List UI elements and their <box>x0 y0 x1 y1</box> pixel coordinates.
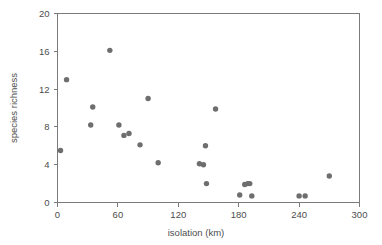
plot-canvas: 060120180240300 048121620 isolation (km)… <box>0 0 382 245</box>
data-point <box>64 77 69 82</box>
x-tick-label: 180 <box>231 209 247 220</box>
data-point <box>107 48 112 53</box>
y-axis-title: species richness <box>8 73 19 143</box>
data-point <box>58 148 63 153</box>
y-tick-label: 4 <box>44 159 49 170</box>
scatter-plot-figure: 060120180240300 048121620 isolation (km)… <box>0 0 382 245</box>
data-point <box>126 131 131 136</box>
data-point <box>204 181 209 186</box>
y-tick-label: 12 <box>39 84 50 95</box>
data-point <box>327 173 332 178</box>
x-tick-label: 120 <box>170 209 186 220</box>
y-axis-ticks <box>54 14 58 203</box>
x-axis-tick-labels: 060120180240300 <box>55 209 368 220</box>
data-point <box>90 104 95 109</box>
data-point <box>203 143 208 148</box>
x-axis-ticks <box>58 203 360 207</box>
x-tick-label: 60 <box>113 209 124 220</box>
data-point <box>213 106 218 111</box>
data-point <box>145 96 150 101</box>
y-tick-label: 20 <box>39 8 50 19</box>
data-point <box>116 122 121 127</box>
data-point <box>155 160 160 165</box>
data-point <box>88 122 93 127</box>
data-point <box>249 193 254 198</box>
data-point <box>237 192 242 197</box>
y-tick-label: 16 <box>39 46 50 57</box>
data-point <box>296 193 301 198</box>
data-point <box>302 193 307 198</box>
data-points <box>58 48 332 199</box>
data-point <box>121 133 126 138</box>
plot-frame <box>58 14 360 203</box>
x-tick-label: 0 <box>55 209 60 220</box>
data-point <box>247 181 252 186</box>
x-axis-title: isolation (km) <box>168 227 225 238</box>
data-point <box>137 142 142 147</box>
y-tick-label: 0 <box>44 197 49 208</box>
x-tick-label: 240 <box>291 209 307 220</box>
data-point <box>201 162 206 167</box>
y-tick-label: 8 <box>44 121 49 132</box>
y-axis-tick-labels: 048121620 <box>39 8 50 208</box>
x-tick-label: 300 <box>352 209 368 220</box>
